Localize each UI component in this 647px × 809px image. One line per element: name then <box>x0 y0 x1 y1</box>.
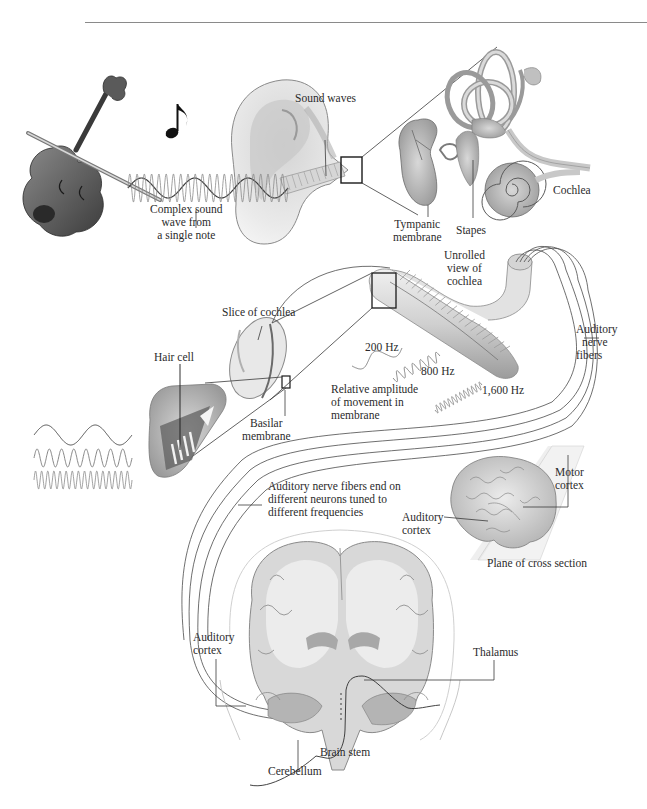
label-line: membrane <box>393 231 442 244</box>
label-line: wave from <box>150 216 223 229</box>
brain-lateral-illustration <box>451 446 584 560</box>
label-line: of movement in <box>331 396 418 409</box>
label-cochlea: Cochlea <box>553 184 591 197</box>
label-line: Basilar <box>242 417 291 430</box>
label-brain-stem: Brain stem <box>320 746 370 759</box>
label-plane-of-cross-section: Plane of cross section <box>487 557 587 570</box>
label-200hz: 200 Hz <box>365 341 399 354</box>
label-line: Unrolled <box>444 249 485 262</box>
label-line: membrane <box>331 409 418 422</box>
label-motor-cortex: Motor cortex <box>555 466 584 492</box>
label-auditory-cortex-lateral: Auditory cortex <box>402 511 444 537</box>
label-line: Complex sound <box>150 203 223 216</box>
label-sound-waves: Sound waves <box>295 92 356 105</box>
label-line: cochlea <box>444 275 485 288</box>
label-thalamus: Thalamus <box>473 646 518 659</box>
label-800hz: 800 Hz <box>421 365 455 378</box>
label-line: Tympanic <box>393 218 442 231</box>
eighth-note-icon <box>164 104 187 140</box>
label-line: a single note <box>150 229 223 242</box>
label-tympanic-membrane: Tympanic membrane <box>393 218 442 244</box>
label-line: Auditory nerve fibers end on <box>268 480 401 493</box>
label-line: Auditory <box>402 511 444 524</box>
label-hair-cell: Hair cell <box>154 351 194 364</box>
label-line: Motor <box>555 466 584 479</box>
label-line: Auditory <box>576 323 618 336</box>
label-basilar-membrane: Basilar membrane <box>242 417 291 443</box>
label-line: view of <box>444 262 485 275</box>
label-relative-amplitude: Relative amplitude of movement in membra… <box>331 383 418 422</box>
label-unrolled-cochlea: Unrolled view of cochlea <box>444 249 485 288</box>
label-line: membrane <box>242 430 291 443</box>
label-line: Auditory <box>193 631 235 644</box>
hair-cell-illustration <box>149 384 226 477</box>
label-fibers-end-on-neurons: Auditory nerve fibers end on different n… <box>268 480 401 519</box>
label-cerebellum: Cerebellum <box>268 765 322 778</box>
violin-illustration <box>23 76 160 236</box>
zoom-box-slice <box>282 376 290 388</box>
label-auditory-nerve-fibers: Auditory nerve fibers <box>576 323 618 362</box>
label-line: Relative amplitude <box>331 383 418 396</box>
label-complex-sound-wave: Complex sound wave from a single note <box>150 203 223 242</box>
brain-coronal-section-illustration <box>220 530 460 770</box>
label-line: cortex <box>402 524 444 537</box>
label-auditory-cortex-coronal: Auditory cortex <box>193 631 235 657</box>
label-line: cortex <box>193 644 235 657</box>
label-slice-of-cochlea: Slice of cochlea <box>222 306 295 319</box>
label-line: nerve <box>576 336 618 349</box>
label-line: fibers <box>576 349 618 362</box>
label-line: different frequencies <box>268 506 401 519</box>
label-line: different neurons tuned to <box>268 493 401 506</box>
component-waves <box>34 425 132 489</box>
label-stapes: Stapes <box>456 224 486 237</box>
label-1600hz: 1,600 Hz <box>482 384 524 397</box>
illustration-canvas <box>0 0 647 809</box>
label-line: cortex <box>555 479 584 492</box>
